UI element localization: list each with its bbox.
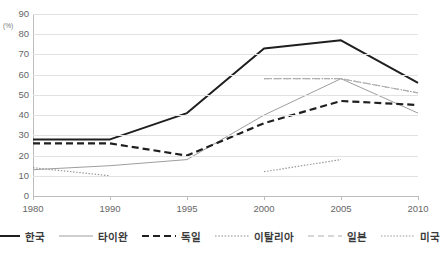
plot-area xyxy=(33,14,418,196)
y-axis-tick-label: 60 xyxy=(3,70,29,80)
y-axis-tick-label: 50 xyxy=(3,90,29,100)
gridline xyxy=(33,135,418,136)
x-axis-tick-label: 2000 xyxy=(234,203,294,214)
legend-label: 일본 xyxy=(347,229,367,244)
gridline xyxy=(33,115,418,116)
legend-swatch-icon xyxy=(59,231,93,241)
legend-label: 타이완 xyxy=(98,229,128,244)
series-lines xyxy=(33,14,418,196)
x-axis-line xyxy=(33,196,418,197)
x-axis-tick xyxy=(187,196,188,200)
series-line xyxy=(33,101,418,156)
y-axis-tick-label: 90 xyxy=(3,9,29,19)
series-line xyxy=(264,160,341,172)
legend-label: 한국 xyxy=(25,229,45,244)
y-axis-tick-label: 70 xyxy=(3,49,29,59)
x-axis-tick xyxy=(110,196,111,200)
series-line xyxy=(264,79,418,93)
legend-swatch-icon xyxy=(215,231,249,241)
y-axis-tick-label: 40 xyxy=(3,110,29,120)
gridline xyxy=(33,95,418,96)
chart-legend: 한국타이완독일이탈리아일본미국 xyxy=(0,222,426,250)
x-axis-tick-label: 1995 xyxy=(157,203,217,214)
chart-title-fragment xyxy=(14,0,314,6)
legend-item-4[interactable]: 일본 xyxy=(308,229,367,244)
gridline xyxy=(33,34,418,35)
y-axis-tick-label: 10 xyxy=(3,171,29,181)
legend-swatch-icon xyxy=(308,231,342,241)
legend-label: 미국 xyxy=(420,229,440,244)
x-axis-tick-label: 1990 xyxy=(80,203,140,214)
gridline xyxy=(33,75,418,76)
x-axis-tick-label: 2010 xyxy=(388,203,444,214)
series-line xyxy=(264,79,418,93)
y-axis-tick-label: 30 xyxy=(3,130,29,140)
gridline xyxy=(33,54,418,55)
legend-item-3[interactable]: 이탈리아 xyxy=(215,229,294,244)
legend-label: 독일 xyxy=(181,229,201,244)
x-axis-tick xyxy=(418,196,419,200)
x-axis-tick xyxy=(264,196,265,200)
legend-item-2[interactable]: 독일 xyxy=(142,229,201,244)
legend-swatch-icon xyxy=(381,231,415,241)
x-axis-tick-label: 1980 xyxy=(3,203,63,214)
legend-item-0[interactable]: 한국 xyxy=(0,229,45,244)
legend-item-5[interactable]: 미국 xyxy=(381,229,440,244)
gridline xyxy=(33,14,418,15)
y-axis-unit-label: (%) xyxy=(3,22,13,29)
x-axis-tick xyxy=(33,196,34,200)
legend-item-1[interactable]: 타이완 xyxy=(59,229,128,244)
gridline xyxy=(33,176,418,177)
y-axis-tick-label: 20 xyxy=(3,151,29,161)
legend-swatch-icon xyxy=(142,231,176,241)
legend-swatch-icon xyxy=(0,231,20,241)
y-axis-tick-label: 80 xyxy=(3,29,29,39)
y-axis-tick-label: 0 xyxy=(3,191,29,201)
gridline xyxy=(33,156,418,157)
legend-label: 이탈리아 xyxy=(254,229,294,244)
y-axis-labels: (%) 9080706050403020100 xyxy=(0,0,29,210)
x-axis-tick xyxy=(341,196,342,200)
x-axis-tick-label: 2005 xyxy=(311,203,371,214)
